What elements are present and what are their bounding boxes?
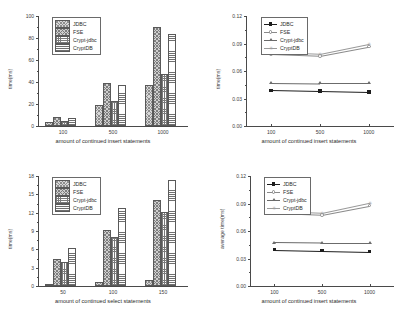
- legend-marker-fse: [267, 189, 280, 195]
- y-tick: [36, 268, 39, 269]
- legend-swatch-jdbc: [55, 180, 70, 188]
- chart-legend: JDBCFSECrypt-jdbc✳CryptDB: [261, 17, 308, 55]
- bar-crypt-jdbc-1000: [161, 74, 169, 126]
- legend-swatch-crypt-jdbc: [55, 196, 70, 204]
- y-axis-label: time(ms): [7, 229, 13, 249]
- legend-item-jdbc[interactable]: JDBC: [55, 20, 97, 28]
- y-minor-tick: [245, 112, 247, 113]
- y-minor-tick: [37, 277, 39, 278]
- line-segment-jdbc: [320, 91, 369, 93]
- y-minor-tick: [37, 204, 39, 205]
- bar-fse-1000: [153, 27, 161, 126]
- x-tick-label: 150: [149, 289, 177, 295]
- y-minor-tick: [37, 115, 39, 116]
- legend-label-cryptdb: CryptDB: [283, 205, 303, 211]
- y-minor-tick: [249, 245, 251, 246]
- legend-label-fse: FSE: [283, 189, 293, 195]
- legend-swatch-cryptdb: [55, 204, 70, 212]
- line-segment-crypt-jdbc: [320, 83, 369, 84]
- marker-square: [269, 22, 272, 25]
- x-tick-label: 50: [49, 289, 77, 295]
- bar-cryptdb-50: [68, 248, 76, 286]
- legend-item-jdbc[interactable]: JDBC: [55, 180, 97, 188]
- marker-plus: ✳: [269, 46, 273, 50]
- y-minor-tick: [37, 240, 39, 241]
- legend-item-fse[interactable]: FSE: [55, 188, 97, 196]
- marker-square: [272, 182, 275, 185]
- x-tick-label: 500: [306, 129, 334, 135]
- legend-item-jdbc[interactable]: JDBC: [267, 180, 307, 188]
- legend-item-fse[interactable]: FSE: [267, 188, 307, 196]
- x-tick: [369, 124, 370, 127]
- bar-fse-100: [53, 117, 61, 126]
- chart-panel-top-right: 0.000.030.060.090.12time(ms)1005001000am…: [206, 0, 412, 160]
- y-tick: [36, 249, 39, 250]
- y-tick-label: 0.12: [220, 13, 242, 19]
- data-point-crypt-jdbc-100: [272, 241, 276, 244]
- legend-item-cryptdb[interactable]: CryptDB: [55, 204, 97, 212]
- legend-item-crypt-jdbc[interactable]: Crypt-jdbc: [55, 36, 97, 44]
- legend-item-fse[interactable]: FSE: [264, 28, 304, 36]
- legend-marker-jdbc: [264, 21, 277, 27]
- legend-marker-fse: [264, 29, 277, 35]
- bar-jdbc-100: [95, 282, 103, 286]
- y-tick-label: 40: [12, 79, 34, 85]
- figure-grid: 020406080100time(ms)1005001000amount of …: [0, 0, 412, 321]
- data-point-cryptdb-1000: ✳: [367, 42, 371, 46]
- y-axis-label: time(ms): [215, 69, 221, 89]
- legend-label-cryptdb: CryptDB: [73, 45, 93, 51]
- legend-item-crypt-jdbc[interactable]: Crypt-jdbc: [264, 36, 304, 44]
- legend-item-crypt-jdbc[interactable]: Crypt-jdbc: [55, 196, 97, 204]
- y-tick: [36, 194, 39, 195]
- y-tick-label: 12: [12, 210, 34, 216]
- legend-marker-jdbc: [267, 181, 280, 187]
- data-point-jdbc-1000: [367, 90, 370, 93]
- legend-item-cryptdb[interactable]: ✳CryptDB: [264, 44, 304, 52]
- line-segment-cryptdb: [322, 203, 370, 214]
- legend-item-cryptdb[interactable]: CryptDB: [55, 44, 97, 52]
- legend-label-cryptdb: CryptDB: [73, 205, 93, 211]
- y-minor-tick: [37, 93, 39, 94]
- x-tick-label: 100: [260, 289, 288, 295]
- chart-panel-bottom-left: 0369121518time(ms)50100150amount of cont…: [0, 160, 206, 320]
- data-point-cryptdb-500: ✳: [318, 52, 322, 56]
- legend-item-jdbc[interactable]: JDBC: [264, 20, 304, 28]
- x-tick: [271, 124, 272, 127]
- y-tick-label: 0.06: [224, 228, 246, 234]
- legend-item-cryptdb[interactable]: ✳CryptDB: [267, 204, 307, 212]
- y-tick: [248, 204, 251, 205]
- y-minor-tick: [245, 85, 247, 86]
- y-minor-tick: [245, 57, 247, 58]
- line-segment-crypt-jdbc: [271, 83, 320, 84]
- data-point-jdbc-500: [320, 249, 323, 252]
- data-point-jdbc-100: [273, 248, 276, 251]
- y-tick-label: 0.06: [220, 68, 242, 74]
- bar-crypt-jdbc-500: [111, 101, 119, 126]
- data-point-jdbc-500: [318, 89, 321, 92]
- legend-label-crypt-jdbc: Crypt-jdbc: [73, 197, 97, 203]
- y-tick-label: 80: [12, 35, 34, 41]
- bar-crypt-jdbc-100: [111, 237, 119, 287]
- y-minor-tick: [249, 190, 251, 191]
- x-axis-label: amount of continued insert statements: [206, 298, 412, 304]
- y-minor-tick: [37, 222, 39, 223]
- x-tick-label: 100: [257, 129, 285, 135]
- y-tick-label: 0.00: [224, 283, 246, 289]
- legend-marker-crypt-jdbc: [264, 37, 277, 43]
- chart-panel-top-left: 020406080100time(ms)1005001000amount of …: [0, 0, 206, 160]
- legend-item-crypt-jdbc[interactable]: Crypt-jdbc: [267, 196, 307, 204]
- bar-fse-150: [153, 200, 161, 286]
- bar-cryptdb-1000: [168, 34, 176, 126]
- y-tick: [36, 60, 39, 61]
- x-tick-label: 100: [99, 289, 127, 295]
- legend-swatch-cryptdb: [55, 44, 70, 52]
- legend-label-crypt-jdbc: Crypt-jdbc: [283, 197, 307, 203]
- y-tick: [248, 176, 251, 177]
- legend-item-fse[interactable]: FSE: [55, 28, 97, 36]
- y-minor-tick: [37, 185, 39, 186]
- x-axis-label: amount of continued select statements: [0, 298, 206, 304]
- x-tick: [320, 124, 321, 127]
- y-tick-label: 0.09: [220, 41, 242, 47]
- data-point-cryptdb-500: ✳: [320, 211, 324, 215]
- legend-marker-cryptdb: ✳: [264, 45, 277, 51]
